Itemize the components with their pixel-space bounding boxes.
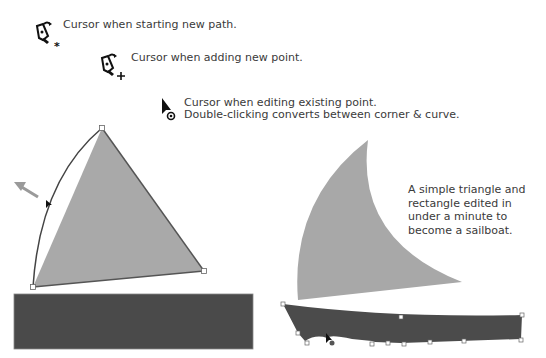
sailboat-description: A simple triangle and rectangle edited i… (408, 183, 538, 237)
note-line: under a minute to (408, 210, 538, 224)
hull-shape (281, 302, 524, 346)
note-line: A simple triangle and (408, 183, 538, 197)
note-line: become a sailboat. (408, 224, 538, 238)
rectangle-shape (14, 294, 253, 349)
illustration (0, 0, 546, 358)
drag-direction-arrow-icon (14, 182, 38, 197)
triangle-shape (31, 126, 207, 290)
note-line: rectangle edited in (408, 197, 538, 211)
